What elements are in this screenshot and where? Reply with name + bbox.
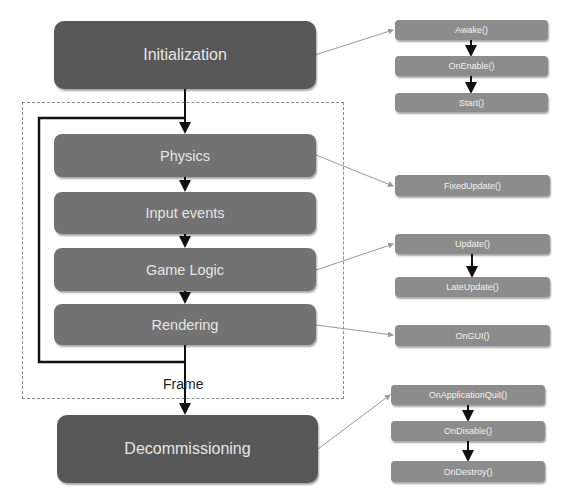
start-callback: Start()	[395, 93, 548, 112]
ondestroy-callback: OnDestroy()	[391, 461, 545, 482]
update-callback: Update()	[395, 234, 550, 254]
onapplicationquit-callback: OnApplicationQuit()	[391, 385, 545, 405]
decommissioning-node: Decommissioning	[57, 415, 318, 483]
frame-label: Frame	[163, 376, 203, 392]
physics-node: Physics	[54, 134, 316, 177]
onenable-callback: OnEnable()	[395, 56, 548, 76]
ondisable-callback: OnDisable()	[391, 421, 545, 441]
game-logic-node: Game Logic	[54, 248, 316, 291]
awake-callback: Awake()	[395, 20, 548, 40]
input-events-node: Input events	[54, 192, 316, 234]
rendering-node: Rendering	[54, 304, 316, 345]
ongui-callback: OnGUI()	[395, 325, 550, 346]
initialization-node: Initialization	[54, 21, 316, 89]
fixedupdate-callback: FixedUpdate()	[395, 175, 550, 196]
lateupdate-callback: LateUpdate()	[395, 277, 550, 297]
